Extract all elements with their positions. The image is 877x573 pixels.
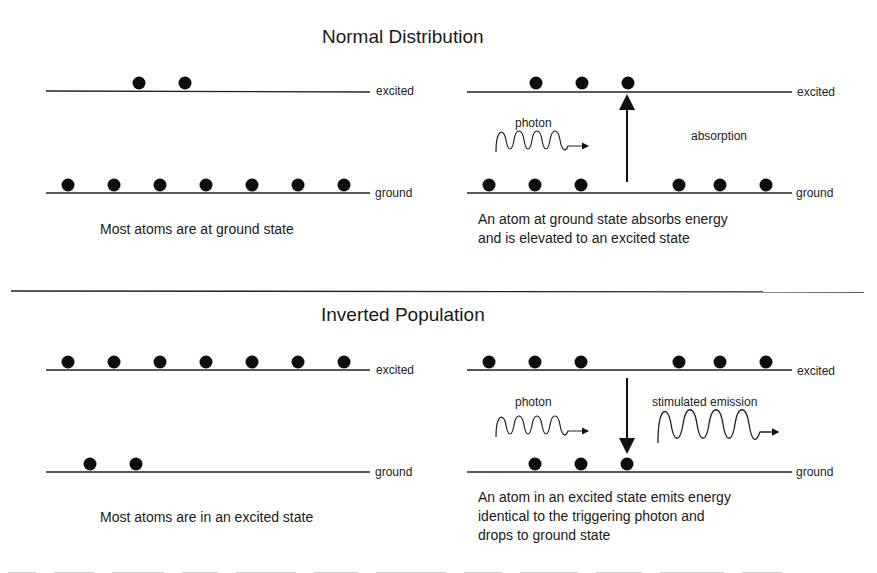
ground-atoms — [529, 458, 634, 471]
atom — [292, 179, 305, 192]
process-label-stimulated-emission: stimulated emission — [652, 395, 757, 409]
ground-label: ground — [796, 186, 833, 200]
atom — [529, 356, 542, 369]
caption-inverted-left: Most atoms are in an excited state — [100, 508, 313, 527]
atom — [154, 356, 167, 369]
atom — [246, 179, 259, 192]
atom — [62, 356, 75, 369]
section-title-normal: Normal Distribution — [322, 26, 484, 48]
atom — [621, 458, 634, 471]
atom — [133, 77, 146, 90]
atom — [714, 179, 727, 192]
atom — [760, 179, 773, 192]
atom — [246, 356, 259, 369]
excited-level-line — [46, 91, 370, 92]
excited-atoms — [530, 77, 635, 90]
atom — [575, 179, 588, 192]
caption-line: drops to ground state — [478, 526, 731, 545]
atom — [673, 179, 686, 192]
caption-normal-right: An atom at ground state absorbs energy a… — [478, 210, 728, 248]
atom — [673, 356, 686, 369]
caption-normal-left: Most atoms are at ground state — [100, 220, 294, 239]
excited-atoms — [62, 356, 351, 369]
atom — [622, 77, 635, 90]
section-title-inverted: Inverted Population — [321, 304, 485, 326]
photon-wave-icon — [496, 131, 588, 152]
caption-line: and is elevated to an excited state — [478, 229, 728, 248]
inverted-right-panel — [467, 356, 792, 473]
atom — [84, 458, 97, 471]
atom — [200, 356, 213, 369]
atom — [338, 356, 351, 369]
atom — [154, 179, 167, 192]
atom — [760, 356, 773, 369]
atom — [529, 458, 542, 471]
excited-label: excited — [376, 84, 414, 98]
inverted-left-panel — [46, 356, 370, 473]
atom — [483, 179, 496, 192]
excited-label: excited — [797, 85, 835, 99]
photon-label: photon — [515, 395, 552, 409]
atom — [529, 179, 542, 192]
atom — [338, 179, 351, 192]
photon-wave-icon — [496, 416, 588, 437]
caption-line: An atom in an excited state emits energy — [478, 488, 731, 507]
truncated-figure-caption — [0, 562, 877, 573]
caption-inverted-right: An atom in an excited state emits energy… — [478, 488, 731, 545]
atom — [108, 179, 121, 192]
ground-atoms — [84, 458, 143, 471]
ground-atoms — [62, 179, 351, 192]
excited-label: excited — [797, 364, 835, 378]
atom — [130, 458, 143, 471]
process-label-absorption: absorption — [691, 129, 747, 143]
excited-label: excited — [376, 363, 414, 377]
atom — [576, 77, 589, 90]
ground-label: ground — [375, 186, 412, 200]
caption-line: An atom at ground state absorbs energy — [478, 210, 728, 229]
atom — [200, 179, 213, 192]
caption-line: identical to the triggering photon and — [478, 507, 731, 526]
atom — [108, 356, 121, 369]
atom — [714, 356, 727, 369]
laser-population-diagram — [0, 0, 877, 573]
atom — [292, 356, 305, 369]
atom — [575, 458, 588, 471]
atom — [62, 179, 75, 192]
atom — [530, 77, 543, 90]
excited-atoms — [133, 77, 192, 90]
ground-label: ground — [796, 465, 833, 479]
stimulated-emission-wave-icon — [658, 410, 778, 443]
atom — [179, 77, 192, 90]
atom — [575, 356, 588, 369]
photon-label: photon — [515, 116, 552, 130]
normal-left-panel — [46, 77, 370, 194]
section-divider — [11, 291, 864, 292]
excited-atoms — [483, 356, 773, 369]
ground-label: ground — [375, 465, 412, 479]
atom — [483, 356, 496, 369]
